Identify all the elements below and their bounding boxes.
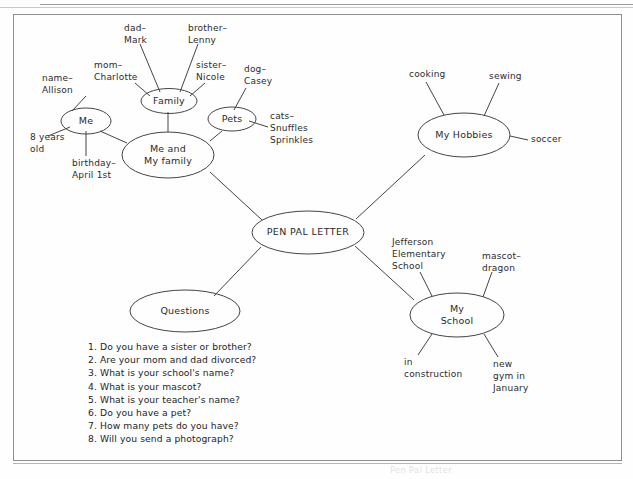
leaf-label-birthday: birthday– April 1st <box>72 157 116 181</box>
leaf-label-dog: dog– Casey <box>244 63 272 87</box>
leaf-label-soccer: soccer <box>531 133 562 145</box>
question-item: 2. Are your mom and dad divorced? <box>88 353 256 366</box>
leaf-label-brother: brother– Lenny <box>188 22 227 46</box>
leaf-label-sister: sister– Nicole <box>196 59 227 83</box>
questions-list: 1. Do you have a sister or brother? 2. A… <box>88 340 256 446</box>
link-center-to-hobbies <box>356 155 425 219</box>
leaf-label-construction: in construction <box>404 356 462 380</box>
question-item: 1. Do you have a sister or brother? <box>88 340 256 353</box>
link-family-cluster-to-pets <box>210 131 222 141</box>
leaf-label-age: 8 years old <box>30 131 65 155</box>
leaf-label-dad: dad– Mark <box>124 22 147 46</box>
link-school-to-new-gym <box>484 334 498 357</box>
leaf-label-mascot: mascot– dragon <box>482 250 521 274</box>
leaf-label-mom: mom– Charlotte <box>94 59 138 83</box>
node-label-pen-pal-letter: PEN PAL LETTER <box>253 226 363 238</box>
node-label-pets: Pets <box>208 113 256 125</box>
leaf-label-new-gym: new gym in January <box>493 358 529 394</box>
link-school-to-construction <box>418 334 432 355</box>
leaf-label-sewing: sewing <box>489 70 522 82</box>
leaf-label-school-name: Jefferson Elementary School <box>392 236 446 272</box>
question-item: 4. What is your mascot? <box>88 380 256 393</box>
node-label-me-and-my-family: Me and My family <box>123 143 213 167</box>
node-label-my-school: My School <box>412 303 502 327</box>
question-item: 5. What is your teacher's name? <box>88 393 256 406</box>
question-item: 6. Do you have a pet? <box>88 406 256 419</box>
question-item: 8. Will you send a photograph? <box>88 432 256 445</box>
leaf-label-cooking: cooking <box>409 68 446 80</box>
link-center-to-questions <box>214 247 261 296</box>
question-item: 3. What is your school's name? <box>88 366 256 379</box>
link-hobbies-to-cooking <box>426 82 444 115</box>
link-hobbies-to-soccer <box>510 136 528 140</box>
link-family-to-dad <box>140 44 160 92</box>
link-center-to-family-cluster <box>210 172 262 220</box>
link-family-cluster-to-me <box>100 131 127 143</box>
leaf-label-cats: cats– Snuffles Sprinkles <box>270 110 313 146</box>
worksheet-page: Pen Pal Letter <box>0 0 633 479</box>
leaf-label-name: name– Allison <box>42 72 73 96</box>
question-item: 7. How many pets do you have? <box>88 419 256 432</box>
link-school-to-school-name <box>420 272 432 296</box>
node-label-family: Family <box>141 95 197 107</box>
link-school-to-mascot <box>483 272 492 297</box>
node-label-me: Me <box>61 115 111 127</box>
link-hobbies-to-sewing <box>484 83 499 116</box>
node-label-questions: Questions <box>131 305 239 317</box>
node-label-my-hobbies: My Hobbies <box>419 129 509 141</box>
